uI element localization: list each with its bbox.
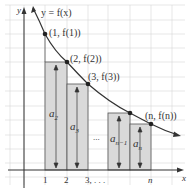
- axes: [8, 10, 180, 188]
- grid: [5, 5, 185, 185]
- point-label-1: (1, f(1)): [49, 27, 81, 39]
- curve-end-arrow-icon: [173, 132, 181, 138]
- y-axis-arrow-icon: [22, 7, 27, 14]
- y-axis-label: y: [16, 5, 21, 15]
- point-label-2: (2, f(2)): [70, 53, 102, 65]
- point-label-3: (3, f(3)): [88, 71, 120, 83]
- x-tick-2: 2: [64, 175, 69, 185]
- x-axis-arrow-icon: [177, 168, 184, 173]
- x-tick-1: 1: [43, 175, 48, 185]
- x-tick-n: n: [148, 175, 153, 185]
- x-axis-label: x: [181, 173, 186, 183]
- point-label-n: (n, f(n)): [145, 110, 177, 122]
- x-tick-3: 3, . . .: [85, 175, 105, 185]
- integral-test-diagram: y x y = f(x) (1, f(1)) (2, f(2)) (3, f(3…: [0, 0, 189, 190]
- curve-label: y = f(x): [41, 7, 72, 19]
- ellipsis: ...: [93, 132, 100, 142]
